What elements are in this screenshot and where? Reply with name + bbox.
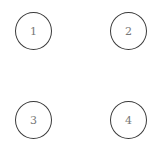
- node-1-label: 1: [30, 26, 37, 37]
- node-4-label: 4: [125, 115, 132, 126]
- node-4: 4: [110, 101, 147, 139]
- node-1: 1: [15, 12, 52, 50]
- node-3: 3: [15, 101, 52, 139]
- diagram-canvas: 1 2 3 4: [0, 0, 161, 151]
- node-3-label: 3: [30, 115, 37, 126]
- node-2-label: 2: [125, 26, 132, 37]
- node-2: 2: [110, 12, 147, 50]
